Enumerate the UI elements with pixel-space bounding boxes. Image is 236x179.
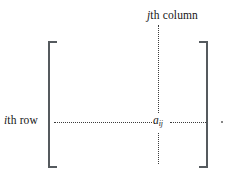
row-label-text: th row (7, 114, 38, 126)
right-bracket-stem (206, 41, 208, 168)
left-bracket-bottom-serif (48, 166, 57, 168)
matrix-entry: aij (152, 114, 164, 130)
right-bracket (199, 41, 208, 168)
column-label: jth column (147, 10, 198, 22)
column-guide-line-upper (158, 25, 159, 113)
row-label: ith row (4, 115, 38, 127)
column-label-text: th column (150, 9, 198, 21)
left-bracket (48, 41, 57, 168)
column-guide-line-lower (158, 133, 159, 164)
right-bracket-bottom-serif (199, 166, 208, 168)
matrix-element-figure: jth column ith row aij (0, 0, 236, 179)
left-bracket-stem (48, 41, 50, 168)
row-guide-line-left (54, 122, 156, 123)
trailing-dot (221, 121, 223, 123)
matrix-entry-subscript: ij (159, 119, 163, 128)
